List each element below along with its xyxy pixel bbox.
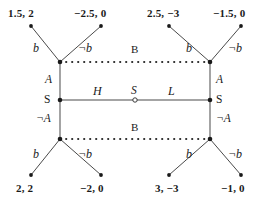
terminal-node-top-left-2 bbox=[99, 24, 103, 28]
chance-node-label: S bbox=[131, 85, 137, 97]
terminal-node-top-left-1 bbox=[29, 24, 33, 28]
action-top-right-b: b bbox=[186, 42, 192, 54]
terminal-node-bottom-right-1 bbox=[167, 173, 171, 177]
action-top-left-not-b: ¬b bbox=[78, 42, 92, 54]
payoff-bottom-left-2: −2, 0 bbox=[80, 183, 104, 194]
tree-canvas bbox=[0, 0, 269, 202]
game-tree-diagram: 1.5, 2 −2.5, 0 2.5, −3 −1.5, 0 2, 2 −2, … bbox=[0, 0, 269, 202]
action-bottom-right-not-b: ¬b bbox=[228, 148, 242, 160]
decision-node-top-left bbox=[58, 60, 63, 65]
action-left-not-A: ¬A bbox=[36, 113, 51, 125]
action-chance-H: H bbox=[93, 85, 102, 97]
action-bottom-left-b: b bbox=[33, 148, 39, 160]
decision-node-bottom-right bbox=[208, 137, 213, 142]
action-bottom-right-b: b bbox=[186, 148, 192, 160]
action-right-A: A bbox=[216, 74, 223, 86]
decision-node-right-S bbox=[208, 98, 213, 103]
action-left-A: A bbox=[45, 74, 52, 86]
action-top-left-b: b bbox=[33, 42, 39, 54]
payoff-top-left-1: 1.5, 2 bbox=[8, 8, 34, 19]
decision-node-bottom-left bbox=[58, 137, 63, 142]
payoff-top-right-2: −1.5, 0 bbox=[213, 8, 245, 19]
terminal-node-bottom-left-1 bbox=[29, 173, 33, 177]
terminal-node-top-right-2 bbox=[239, 24, 243, 28]
terminal-node-bottom-left-2 bbox=[99, 173, 103, 177]
chance-node bbox=[133, 98, 137, 102]
payoff-bottom-right-1: 3, −3 bbox=[155, 183, 179, 194]
decision-node-top-right bbox=[208, 60, 213, 65]
node-label-right-S: S bbox=[216, 94, 222, 106]
infoset-label-bottom: B bbox=[131, 122, 138, 133]
action-right-not-A: ¬A bbox=[216, 113, 231, 125]
node-label-left-S: S bbox=[44, 94, 50, 106]
terminal-node-bottom-right-2 bbox=[239, 173, 243, 177]
action-chance-L: L bbox=[168, 85, 175, 97]
payoff-bottom-left-1: 2, 2 bbox=[16, 183, 33, 194]
payoff-top-left-2: −2.5, 0 bbox=[74, 8, 106, 19]
payoff-top-right-1: 2.5, −3 bbox=[147, 8, 179, 19]
payoff-bottom-right-2: −1, 0 bbox=[221, 183, 245, 194]
decision-node-left-S bbox=[58, 98, 63, 103]
action-top-right-not-b: ¬b bbox=[228, 42, 242, 54]
terminal-node-top-right-1 bbox=[167, 24, 171, 28]
action-bottom-left-not-b: ¬b bbox=[78, 148, 92, 160]
infoset-label-top: B bbox=[131, 44, 138, 55]
